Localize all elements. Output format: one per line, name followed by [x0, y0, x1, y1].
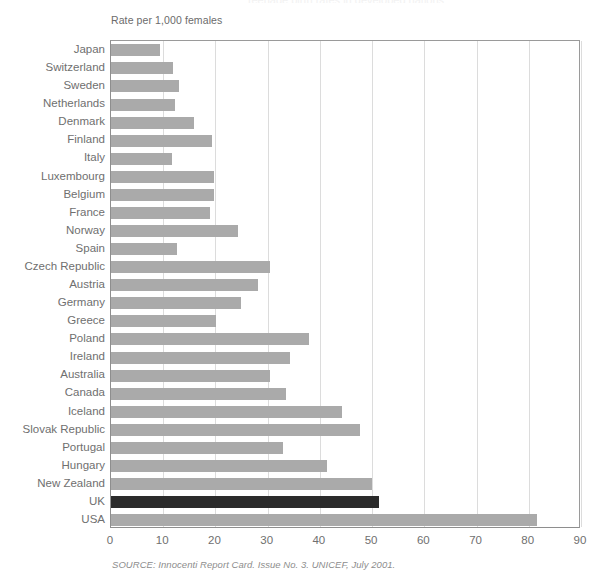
- bar-netherlands: [111, 99, 175, 111]
- bar-row: [111, 439, 579, 457]
- category-label-slovak-republic: Slovak Republic: [0, 423, 105, 435]
- category-label-canada: Canada: [0, 386, 105, 398]
- x-tick-label-10: 10: [156, 534, 169, 546]
- category-label-uk: UK: [0, 495, 105, 507]
- bar-row: [111, 41, 579, 59]
- bar-row: [111, 131, 579, 149]
- category-label-usa: USA: [0, 513, 105, 525]
- bar-ireland: [111, 352, 290, 364]
- category-label-australia: Australia: [0, 368, 105, 380]
- bar-row: [111, 330, 579, 348]
- bar-row: [111, 475, 579, 493]
- value-axis-tick-labels: 0102030405060708090: [0, 534, 607, 552]
- bar-row: [111, 421, 579, 439]
- bar-row: [111, 294, 579, 312]
- x-tick-label-50: 50: [365, 534, 378, 546]
- x-tick-label-90: 90: [574, 534, 587, 546]
- bar-row: [111, 457, 579, 475]
- bar-row: [111, 258, 579, 276]
- bar-row: [111, 95, 579, 113]
- bar-germany: [111, 297, 241, 309]
- bar-japan: [111, 44, 160, 56]
- bar-denmark: [111, 117, 194, 129]
- clipped-chart-title: Teenage birth rates in developed nations: [110, 0, 580, 3]
- category-label-japan: Japan: [0, 43, 105, 55]
- bar-row: [111, 366, 579, 384]
- teenage-birth-rate-bar-chart: Teenage birth rates in developed nations…: [0, 0, 607, 579]
- bar-finland: [111, 135, 212, 147]
- bar-row: [111, 511, 579, 529]
- x-tick-label-80: 80: [521, 534, 534, 546]
- category-label-switzerland: Switzerland: [0, 61, 105, 73]
- category-label-norway: Norway: [0, 224, 105, 236]
- gridline-90: [581, 41, 582, 527]
- bar-portugal: [111, 442, 283, 454]
- x-tick-label-0: 0: [107, 534, 113, 546]
- bar-greece: [111, 315, 216, 327]
- value-axis-note: Rate per 1,000 females: [111, 14, 222, 26]
- source-note: SOURCE: Innocenti Report Card. Issue No.…: [112, 559, 395, 570]
- bar-sweden: [111, 80, 179, 92]
- bar-row: [111, 240, 579, 258]
- bar-australia: [111, 370, 270, 382]
- category-label-denmark: Denmark: [0, 115, 105, 127]
- bar-row: [111, 348, 579, 366]
- category-label-france: France: [0, 206, 105, 218]
- bar-row: [111, 77, 579, 95]
- bar-row: [111, 186, 579, 204]
- bar-row: [111, 493, 579, 511]
- bars-layer: [111, 41, 579, 527]
- category-label-hungary: Hungary: [0, 459, 105, 471]
- category-label-czech-republic: Czech Republic: [0, 260, 105, 272]
- category-label-new-zealand: New Zealand: [0, 477, 105, 489]
- bar-canada: [111, 388, 286, 400]
- bar-row: [111, 204, 579, 222]
- bar-hungary: [111, 460, 327, 472]
- bar-row: [111, 113, 579, 131]
- plot-area: [110, 40, 580, 528]
- x-tick-label-60: 60: [417, 534, 430, 546]
- category-label-finland: Finland: [0, 133, 105, 145]
- bar-austria: [111, 279, 258, 291]
- bar-switzerland: [111, 62, 173, 74]
- bar-slovak-republic: [111, 424, 360, 436]
- bar-italy: [111, 153, 172, 165]
- bar-uk: [111, 496, 379, 508]
- bar-new-zealand: [111, 478, 372, 490]
- category-axis-labels: JapanSwitzerlandSwedenNetherlandsDenmark…: [0, 40, 105, 528]
- bar-row: [111, 168, 579, 186]
- bar-czech-republic: [111, 261, 270, 273]
- category-label-portugal: Portugal: [0, 441, 105, 453]
- bar-iceland: [111, 406, 342, 418]
- category-label-spain: Spain: [0, 242, 105, 254]
- category-label-ireland: Ireland: [0, 350, 105, 362]
- category-label-germany: Germany: [0, 296, 105, 308]
- bar-france: [111, 207, 210, 219]
- bar-row: [111, 312, 579, 330]
- bar-norway: [111, 225, 238, 237]
- bar-belgium: [111, 189, 214, 201]
- bar-spain: [111, 243, 177, 255]
- bar-row: [111, 384, 579, 402]
- category-label-luxembourg: Luxembourg: [0, 170, 105, 182]
- category-label-netherlands: Netherlands: [0, 97, 105, 109]
- bar-row: [111, 276, 579, 294]
- x-tick-label-40: 40: [312, 534, 325, 546]
- x-tick-label-70: 70: [469, 534, 482, 546]
- bar-row: [111, 149, 579, 167]
- bar-usa: [111, 514, 537, 526]
- bar-poland: [111, 333, 309, 345]
- category-label-belgium: Belgium: [0, 188, 105, 200]
- category-label-italy: Italy: [0, 151, 105, 163]
- x-tick-label-30: 30: [260, 534, 273, 546]
- bar-row: [111, 222, 579, 240]
- bar-row: [111, 59, 579, 77]
- category-label-austria: Austria: [0, 278, 105, 290]
- category-label-poland: Poland: [0, 332, 105, 344]
- x-tick-label-20: 20: [208, 534, 221, 546]
- bar-luxembourg: [111, 171, 214, 183]
- bar-row: [111, 402, 579, 420]
- category-label-sweden: Sweden: [0, 79, 105, 91]
- category-label-greece: Greece: [0, 314, 105, 326]
- category-label-iceland: Iceland: [0, 405, 105, 417]
